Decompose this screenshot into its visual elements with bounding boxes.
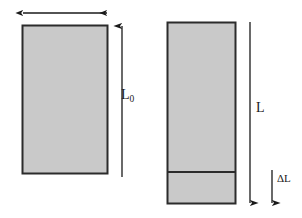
stretched-bar [168, 23, 236, 204]
original-bar [23, 26, 108, 174]
elongation-label: ΔL [277, 173, 291, 184]
original-length-label: L0 [121, 88, 134, 104]
elongation-diagram: L0 L ΔL [0, 0, 302, 218]
stretched-length-label: L [256, 101, 265, 115]
original-length-label-subscript: 0 [130, 94, 135, 104]
original-length-label-text: L [121, 87, 130, 102]
